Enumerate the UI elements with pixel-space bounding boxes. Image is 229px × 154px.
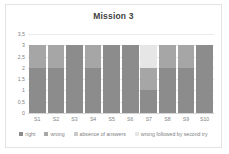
legend-label: right [25, 131, 35, 137]
bar-segment[interactable] [85, 45, 102, 68]
bar-segment[interactable] [196, 45, 213, 113]
x-axis-tick-label: S8 [164, 116, 170, 122]
x-axis-tick-label: S10 [200, 116, 209, 122]
bar-column[interactable]: S9 [178, 34, 195, 113]
x-axis-tick-label: S9 [183, 116, 189, 122]
y-axis-tick-label: 1 [22, 87, 25, 93]
bar-segment[interactable] [178, 45, 195, 68]
bar-column[interactable]: S1 [29, 34, 46, 113]
bar-column[interactable]: S6 [122, 34, 139, 113]
x-axis-tick-label: S1 [34, 116, 40, 122]
bar-column[interactable]: S5 [103, 34, 120, 113]
bar-segment[interactable] [140, 90, 157, 113]
legend-swatch-icon [19, 132, 23, 136]
bar-segment[interactable] [178, 68, 195, 113]
y-axis-tick-label: 2,5 [18, 54, 25, 60]
legend-swatch-icon [135, 132, 139, 136]
y-axis-tick-label: 0 [22, 110, 25, 116]
bar-segment[interactable] [85, 68, 102, 113]
bar-column[interactable]: S8 [159, 34, 176, 113]
x-axis-tick-label: S6 [127, 116, 133, 122]
bar-column[interactable]: S4 [85, 34, 102, 113]
bar-segment[interactable] [140, 68, 157, 91]
bar-column[interactable]: S2 [48, 34, 65, 113]
bar-column[interactable]: S7 [140, 34, 157, 113]
x-axis-tick-label: S5 [108, 116, 114, 122]
x-axis-tick-label: S7 [146, 116, 152, 122]
bar-segment[interactable] [48, 45, 65, 68]
legend-swatch-icon [74, 132, 78, 136]
legend-item[interactable]: wrong [44, 131, 64, 137]
x-axis-tick-label: S3 [71, 116, 77, 122]
bar-segment[interactable] [29, 45, 46, 68]
bar-column[interactable]: S10 [196, 34, 213, 113]
legend-item[interactable]: right [19, 131, 35, 137]
legend-swatch-icon [44, 132, 48, 136]
bar-segment[interactable] [122, 45, 139, 113]
bar-segment[interactable] [159, 45, 176, 68]
bar-segment[interactable] [66, 45, 83, 113]
y-axis-tick-label: 3,5 [18, 31, 25, 37]
legend-label: wrong [50, 131, 64, 137]
y-axis-tick-label: 2 [22, 65, 25, 71]
bar-segment[interactable] [29, 68, 46, 113]
bar-segment[interactable] [48, 68, 65, 113]
legend-item[interactable]: absence of answers [74, 131, 126, 137]
legend-item[interactable]: wrong followed by second try [135, 131, 208, 137]
bar-column[interactable]: S3 [66, 34, 83, 113]
legend-label: absence of answers [80, 131, 126, 137]
chart-title: Mission 3 [6, 11, 221, 21]
x-axis-tick-label: S4 [90, 116, 96, 122]
y-axis-tick-label: 3 [22, 42, 25, 48]
chart-legend: rightwrongabsence of answerswrong follow… [6, 131, 221, 137]
bar-segment[interactable] [103, 45, 120, 113]
bar-segment[interactable] [159, 68, 176, 113]
chart-frame: Mission 3 00,511,522,533,5 S1S2S3S4S5S6S… [5, 4, 222, 148]
bar-group: S1S2S3S4S5S6S7S8S9S10 [28, 34, 214, 113]
gridline [28, 113, 214, 114]
plot-area: 00,511,522,533,5 S1S2S3S4S5S6S7S8S9S10 [28, 34, 214, 113]
y-axis-tick-label: 0,5 [18, 99, 25, 105]
y-axis-tick-label: 1,5 [18, 76, 25, 82]
legend-label: wrong followed by second try [141, 131, 208, 137]
bar-segment[interactable] [140, 45, 157, 68]
x-axis-tick-label: S2 [53, 116, 59, 122]
